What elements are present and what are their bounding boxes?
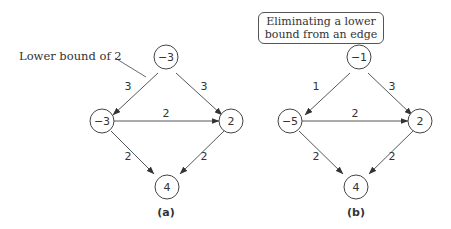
callout-line-2: bound from an edge — [259, 28, 383, 41]
edge-label: 2 — [125, 150, 132, 163]
node-b-top: −1 — [347, 45, 371, 69]
edge-b-left-bottom — [299, 131, 343, 174]
node-b-right: 2 — [408, 109, 432, 133]
edge-a-top-left — [113, 73, 158, 115]
svg-text:2: 2 — [417, 115, 424, 128]
edge-label: 2 — [352, 107, 359, 120]
callout-line-1: Eliminating a lower — [259, 15, 383, 28]
callout-box: Eliminating a lower bound from an edge — [258, 12, 384, 44]
node-b-left: −5 — [278, 109, 302, 133]
edge-label: 1 — [313, 80, 320, 93]
edge-label: 3 — [389, 80, 396, 93]
svg-text:4: 4 — [164, 181, 171, 194]
edge-label: 3 — [201, 80, 208, 93]
svg-text:2: 2 — [228, 115, 235, 128]
node-a-top: −3 — [154, 45, 178, 69]
edge-label: 2 — [163, 107, 170, 120]
edge-a-left-bottom — [111, 131, 154, 174]
edge-label: 3 — [125, 80, 132, 93]
graph-a: 3 3 2 2 2 −3 −3 2 4 (a) — [90, 45, 243, 219]
node-a-bottom: 4 — [155, 175, 179, 199]
svg-text:−1: −1 — [351, 51, 367, 64]
caption-b: (b) — [347, 206, 365, 219]
caption-a: (a) — [157, 206, 174, 219]
svg-text:−5: −5 — [282, 115, 298, 128]
annotation-text: Lower bound of 2 — [19, 49, 122, 63]
edge-label: 2 — [201, 150, 208, 163]
edge-label: 2 — [313, 150, 320, 163]
node-a-right: 2 — [219, 109, 243, 133]
node-b-bottom: 4 — [344, 175, 368, 199]
svg-text:4: 4 — [353, 181, 360, 194]
svg-text:−3: −3 — [94, 115, 110, 128]
edge-label: 2 — [389, 150, 396, 163]
node-a-left: −3 — [90, 109, 114, 133]
svg-text:−3: −3 — [158, 51, 174, 64]
edge-a-top-right — [176, 73, 222, 115]
graph-b: 1 3 2 2 2 −1 −5 2 4 (b) — [278, 45, 432, 219]
